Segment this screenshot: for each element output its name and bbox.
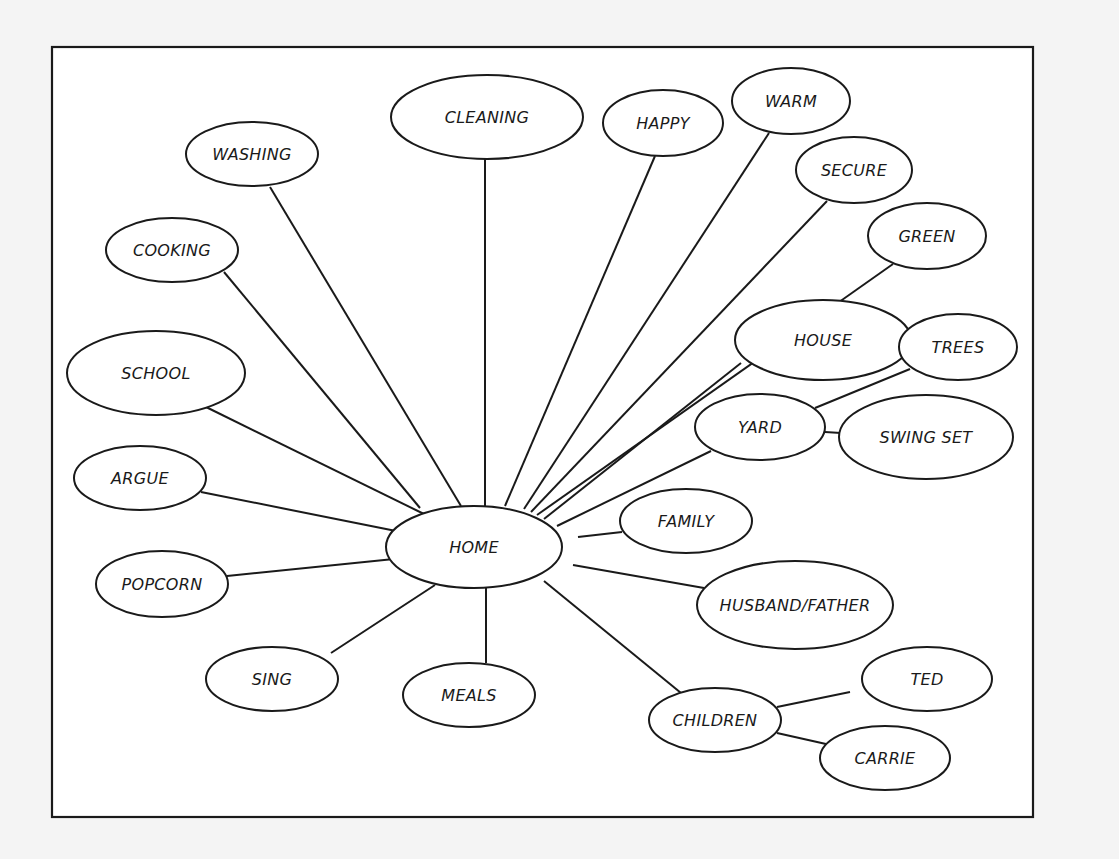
node-label: HUSBAND/FATHER [720,596,871,615]
node-ted: TED [862,647,992,711]
node-sing: SING [206,647,338,711]
node-home: HOME [386,506,562,588]
node-label: TED [910,670,943,689]
node-warm: WARM [732,68,850,134]
node-secure: SECURE [796,137,912,203]
node-children: CHILDREN [649,688,781,752]
node-label: TREES [932,338,985,357]
node-label: POPCORN [122,575,203,594]
node-trees: TREES [899,314,1017,380]
node-label: CLEANING [445,108,530,127]
node-label: COOKING [133,241,211,260]
node-green: GREEN [868,203,986,269]
node-washing: WASHING [186,122,318,186]
node-label: SECURE [821,161,888,180]
node-label: HAPPY [636,114,690,133]
node-carrie: CARRIE [820,726,950,790]
concept-map: CLEANINGWASHINGCOOKINGHAPPYWARMSECUREGRE… [0,0,1119,859]
node-label: SWING SET [880,428,974,447]
node-label: HOUSE [794,331,853,350]
node-popcorn: POPCORN [96,551,228,617]
node-yard: YARD [695,394,825,460]
node-cooking: COOKING [106,218,238,282]
node-label: WASHING [212,145,291,164]
node-label: MEALS [441,686,496,705]
node-label: GREEN [898,227,955,246]
node-label: SCHOOL [121,364,190,383]
node-school: SCHOOL [67,331,245,415]
node-label: YARD [738,418,782,437]
node-label: ARGUE [110,469,169,488]
node-husband-father: HUSBAND/FATHER [697,561,893,649]
node-label: CARRIE [855,749,917,768]
node-argue: ARGUE [74,446,206,510]
node-label: WARM [765,92,817,111]
node-swing-set: SWING SET [839,395,1013,479]
node-label: SING [252,670,292,689]
node-label: FAMILY [658,512,716,531]
node-cleaning: CLEANING [391,75,583,159]
node-happy: HAPPY [603,90,723,156]
node-meals: MEALS [403,663,535,727]
node-house: HOUSE [735,300,911,380]
node-label: CHILDREN [673,711,758,730]
node-family: FAMILY [620,489,752,553]
node-label: HOME [449,538,499,557]
